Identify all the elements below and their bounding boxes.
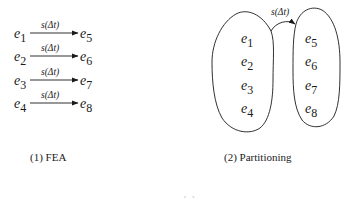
partitioning-panel: s(Δt) e1 e2 e3 e4 e5 e6 e7 e8 (2) Partit… [212, 7, 340, 164]
fea-row-4: e4 s(Δt) e8 [14, 90, 92, 115]
figure-caption-partial: (a) [183, 193, 196, 198]
fea-caption: (1) FEA [30, 151, 66, 164]
part-node-e4: e4 [241, 101, 253, 120]
node-e2: e2 [14, 49, 26, 68]
node-e4: e4 [14, 96, 26, 115]
part-node-e5: e5 [305, 31, 317, 50]
fea-panel: e1 s(Δt) e5 e2 s(Δt) e6 e3 s(Δt) e7 e4 s… [14, 20, 92, 164]
diagram-canvas: e1 s(Δt) e5 e2 s(Δt) e6 e3 s(Δt) e7 e4 s… [0, 0, 350, 198]
edge-label: s(Δt) [41, 20, 59, 31]
part-node-e8: e8 [305, 101, 317, 120]
part-node-e6: e6 [305, 54, 317, 73]
edge-label: s(Δt) [41, 90, 59, 101]
fea-row-3: e3 s(Δt) e7 [14, 67, 92, 92]
node-e3: e3 [14, 73, 26, 92]
part-node-e2: e2 [241, 54, 253, 73]
part-node-e1: e1 [241, 31, 253, 50]
part-node-e7: e7 [305, 78, 317, 97]
node-e1: e1 [14, 26, 26, 45]
fea-row-1: e1 s(Δt) e5 [14, 20, 92, 45]
partitioning-caption: (2) Partitioning [224, 151, 292, 164]
node-e7: e7 [80, 73, 92, 92]
node-e5: e5 [80, 26, 92, 45]
edge-label: s(Δt) [41, 67, 59, 78]
partition-edge-arrow [271, 22, 295, 31]
edge-label: s(Δt) [41, 43, 59, 54]
fea-row-2: e2 s(Δt) e6 [14, 43, 92, 68]
node-e6: e6 [80, 49, 92, 68]
part-node-e3: e3 [241, 78, 253, 97]
partition-edge-label: s(Δt) [271, 7, 289, 18]
node-e8: e8 [80, 96, 92, 115]
